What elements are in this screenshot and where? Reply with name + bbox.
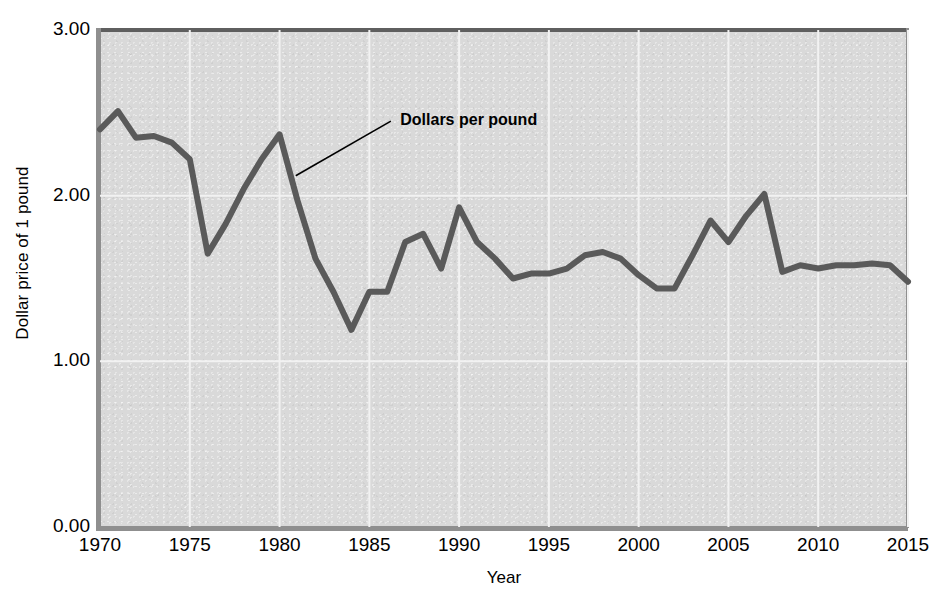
series-annotation-label: Dollars per pound [400,111,537,129]
y-tick-label: 3.00 [18,18,90,40]
x-tick-label: 1990 [424,534,494,556]
x-tick-label: 2010 [783,534,853,556]
x-tick-label: 1970 [65,534,135,556]
annotation-leader-line [296,121,391,176]
x-tick-label: 2015 [873,534,930,556]
x-tick-label: 1985 [334,534,404,556]
gridlines [100,30,908,527]
x-tick-label: 2000 [604,534,674,556]
x-tick-label: 1995 [514,534,584,556]
data-series-group [100,111,908,330]
series-line [100,111,908,330]
x-tick-label: 1980 [245,534,315,556]
chart-figure: 0.001.002.003.00 19701975198019851990199… [0,0,930,605]
annotation-leader [296,121,391,176]
x-axis-title: Year [100,568,908,588]
x-tick-label: 2005 [693,534,763,556]
chart-svg [0,0,930,605]
x-tick-label: 1975 [155,534,225,556]
y-axis-title: Dollar price of 1 pound [13,98,33,408]
